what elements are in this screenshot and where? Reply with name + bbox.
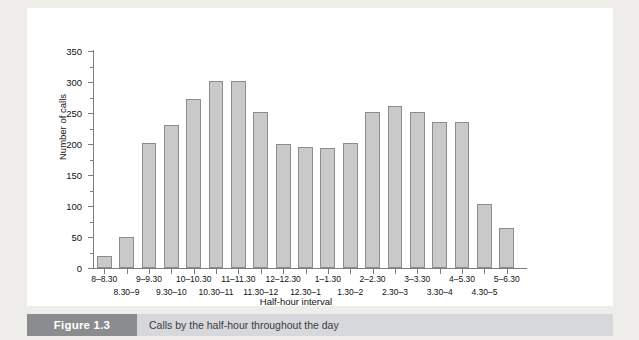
bar [276,144,291,268]
bar [97,256,112,268]
figure-caption-bar: Figure 1.3 Calls by the half-hour throug… [27,314,613,336]
y-tick-label: 350 [66,46,82,57]
x-axis-title: Half-hour interval [27,296,613,307]
x-tick-label: 2–2.30 [360,274,386,284]
bar [410,112,425,268]
bar [455,122,470,268]
bar-series [93,51,518,268]
x-tick-label: 11–11.30 [221,274,255,284]
y-axis-ticks: 050100150200250300350 [27,8,93,306]
x-tick-label: 9–9.30 [136,274,162,284]
y-tick-label: 0 [77,263,82,274]
y-tick-label: 100 [66,201,82,212]
x-tick-label: 1–1.30 [315,274,341,284]
bar [231,81,246,268]
bar [432,122,447,268]
page-background: Number of calls 050100150200250300350 8–… [0,0,639,340]
x-tick-label: 4–5.30 [449,274,475,284]
bar [298,147,313,268]
x-tick-label: 5–6.30 [494,274,520,284]
figure-panel: Number of calls 050100150200250300350 8–… [27,8,613,306]
bar [209,81,224,268]
bar [477,204,492,268]
y-tick-label: 50 [71,232,82,243]
bar [253,112,268,268]
x-axis-title-text: Half-hour interval [260,296,332,307]
y-tick-label: 300 [66,77,82,88]
y-tick-label: 150 [66,170,82,181]
bar [164,125,179,268]
bar [119,237,134,268]
bar [142,143,157,268]
x-tick-label: 12–12.30 [265,274,300,284]
bar [499,228,514,268]
figure-number-label: Figure 1.3 [27,314,137,336]
bar [320,148,335,268]
bar [343,143,358,268]
bar [186,99,201,268]
x-tick-label: 8–8.30 [91,274,117,284]
figure-caption-text: Calls by the half-hour throughout the da… [149,314,339,336]
y-tick-label: 200 [66,139,82,150]
bar [365,112,380,268]
y-tick-label: 250 [66,108,82,119]
x-tick-label: 3–3.30 [404,274,430,284]
x-tick-label: 10–10.30 [176,274,211,284]
bar [388,106,403,268]
